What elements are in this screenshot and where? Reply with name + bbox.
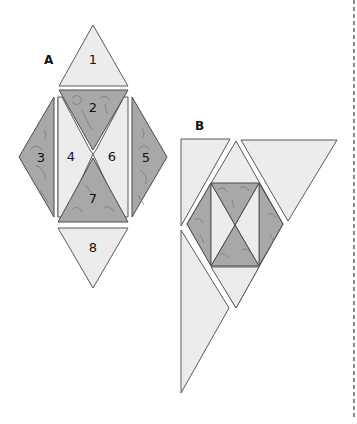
piecing-diagram: A 1 2 3 4 6 5 7 8 B — [0, 0, 357, 424]
piece-7-number: 7 — [89, 191, 97, 206]
diagram-a-label: A — [44, 53, 54, 67]
diagram-a: A 1 2 3 4 6 5 7 8 — [19, 25, 167, 288]
piece-1-number: 1 — [89, 52, 97, 67]
piece-8-number: 8 — [89, 240, 97, 255]
piece-5-number: 5 — [142, 150, 150, 165]
diagram-b: B — [181, 119, 337, 393]
piece-4-number: 4 — [67, 149, 75, 164]
piece-6-number: 6 — [108, 149, 116, 164]
piece-2-number: 2 — [89, 100, 97, 115]
diagram-b-label: B — [195, 119, 204, 133]
piece-8 — [58, 228, 128, 288]
piece-3-number: 3 — [37, 150, 45, 165]
